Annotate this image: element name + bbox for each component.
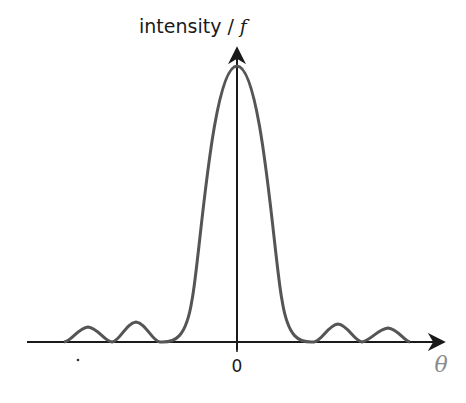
origin-tick-label: 0 <box>232 356 243 376</box>
diffraction-diagram: intensity / f 0 θ <box>0 0 466 403</box>
y-axis-label: intensity / f <box>139 15 250 37</box>
stray-mark <box>77 359 80 362</box>
x-axis-label: θ <box>434 352 447 377</box>
